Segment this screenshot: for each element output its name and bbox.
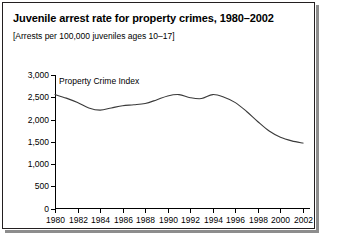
- x-axis-tick-label: 2002: [290, 215, 318, 225]
- y-axis-tick-label: 2,000: [15, 115, 49, 125]
- y-axis-tick-label: 500: [15, 181, 49, 191]
- figure-panel: Juvenile arrest rate for property crimes…: [2, 2, 315, 229]
- chart-canvas: [3, 3, 316, 230]
- data-series-line: [55, 95, 303, 144]
- plot-area: Property Crime Index 05001,0001,5002,000…: [3, 3, 316, 230]
- panel-shadow-right: [316, 5, 319, 232]
- y-axis-tick-label: 0: [15, 204, 49, 214]
- panel-shadow-bottom: [5, 230, 319, 233]
- y-axis-tick-label: 3,000: [15, 70, 49, 80]
- y-axis-tick-label: 1,000: [15, 159, 49, 169]
- y-axis-tick-label: 1,500: [15, 137, 49, 147]
- series-label: Property Crime Index: [59, 76, 139, 86]
- y-axis-tick-label: 2,500: [15, 92, 49, 102]
